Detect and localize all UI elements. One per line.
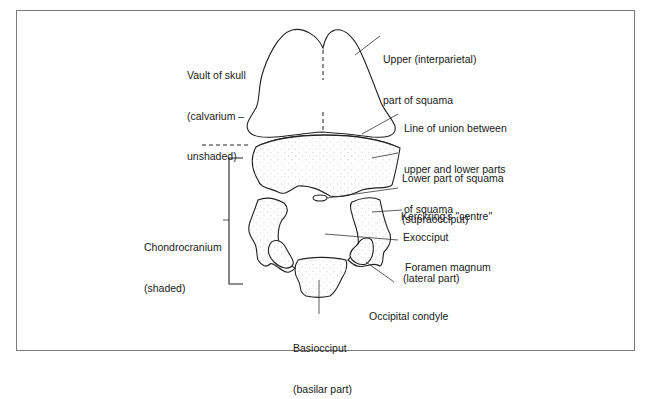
label-line: Vault of skull [187,69,246,83]
label-line: Upper (interparietal) [383,53,476,67]
right-condyle-shape [350,238,373,265]
label-line: Basiocciput [293,342,352,356]
label-line: Occipital condyle [369,310,448,324]
label-line: (shaded) [144,282,222,296]
interparietal-squama-shape [247,29,395,137]
label-occipital-condyle: Occipital condyle [369,283,448,337]
label-line: unshaded) [187,150,246,164]
label-chondrocranium: Chondrocranium (shaded) [144,214,222,309]
basiocciput-shape [295,257,347,297]
label-line: Chondrocranium [144,241,222,255]
leader-upper-squama [355,36,380,55]
kerckrings-centre-shape [313,195,327,201]
label-basiocciput: Basiocciput (basilar part) [293,315,352,399]
label-line: Line of union between [404,122,507,136]
label-vault-of-skull: Vault of skull (calvarium – unshaded) [187,42,246,177]
label-foramen-magnum: Foramen magnum [405,234,491,288]
label-line: (basilar part) [293,383,352,397]
label-line: Foramen magnum [405,261,491,275]
supraocciput-shape [252,135,400,197]
label-line: (calvarium – [187,110,246,124]
